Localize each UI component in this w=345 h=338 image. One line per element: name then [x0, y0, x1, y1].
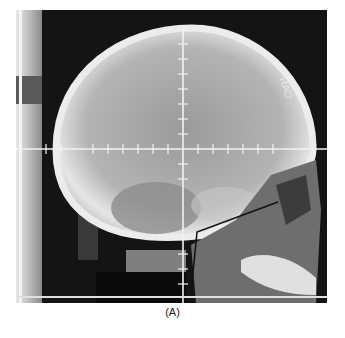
occluder-box [96, 272, 186, 303]
skull-xray-image: RAO [16, 10, 327, 303]
figure-caption: (A) [0, 306, 345, 318]
xray-drawing [16, 10, 327, 303]
